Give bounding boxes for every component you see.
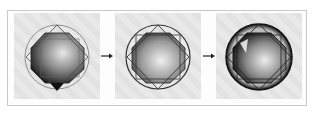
panel-step-2: [115, 13, 201, 99]
octagon-face: [132, 33, 185, 83]
panel-step-1: [14, 13, 100, 99]
gem-illustration-3: [216, 13, 302, 99]
panel-step-3: [216, 13, 302, 99]
octagon-face: [233, 33, 286, 83]
octagon-face: [31, 33, 84, 83]
arrow-right-icon: [101, 53, 113, 59]
arrow-right-icon: [203, 53, 215, 59]
gem-illustration-2: [115, 13, 201, 99]
bottom-facet: [50, 83, 64, 91]
gem-illustration-1: [14, 13, 100, 99]
